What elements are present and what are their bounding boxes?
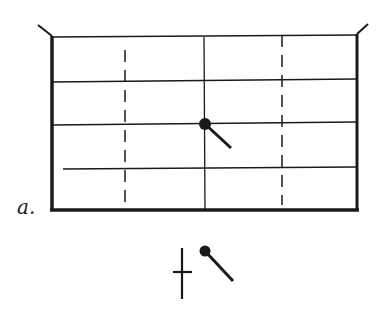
grid-h-3 (63, 167, 356, 169)
right-rim-tick (357, 24, 368, 34)
left-rim-tick (38, 25, 52, 36)
legend-pendulum-stick (205, 251, 233, 281)
pendulum-pivot-icon (199, 118, 211, 130)
panel-label: a. (17, 195, 35, 219)
legend-pendulum-pivot-icon (200, 246, 211, 257)
figure-canvas: a. (0, 0, 388, 311)
diagram-svg (0, 0, 388, 311)
frame-top (52, 35, 357, 37)
